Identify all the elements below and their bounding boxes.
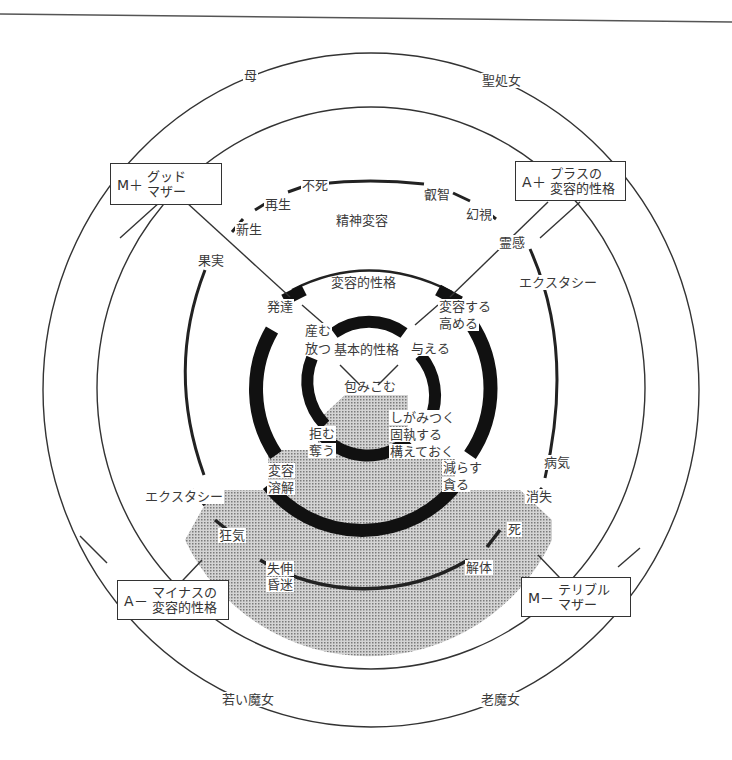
label-development: 発達: [266, 299, 294, 314]
box-symbol: M－: [528, 587, 554, 607]
label-immortality: 不死: [301, 178, 329, 193]
box-symbol: A＋: [522, 171, 546, 191]
label-refuse-2: 奪う: [308, 443, 336, 458]
box-positive-transformative: A＋ プラスの変容的性格: [515, 161, 626, 201]
label-illness: 病気: [543, 455, 571, 470]
label-death: 死: [507, 522, 522, 537]
label-ecstasy-right: エクスタシー: [518, 275, 598, 290]
label-contain: 包みこむ: [343, 379, 397, 394]
label-spirit-transformation: 精神変容: [335, 213, 389, 228]
label-transform-2: 高める: [438, 316, 479, 331]
box-line: 変容的性格: [550, 181, 615, 196]
box-symbol: M＋: [117, 174, 143, 194]
label-bear-2: 放つ: [304, 341, 332, 356]
box-good-mother: M＋ グッドマザー: [110, 163, 222, 205]
box-line: マザー: [558, 597, 610, 612]
label-change-2: 溶解: [267, 480, 295, 495]
label-reduce-1: 減らす: [442, 460, 483, 475]
label-give: 与える: [410, 341, 451, 356]
label-reduce-2: 貪る: [442, 477, 470, 492]
box-line: プラスの: [550, 166, 615, 181]
box-line: テリブル: [558, 582, 610, 597]
label-stupor-1: 失伸: [266, 561, 294, 576]
label-madness: 狂気: [218, 528, 246, 543]
label-old-witch: 老魔女: [480, 692, 521, 707]
box-symbol: A－: [124, 590, 148, 610]
header-rule: [0, 14, 732, 22]
label-cling-2: 固執する: [389, 427, 443, 442]
label-elementary-character: 基本的性格: [333, 342, 400, 357]
label-disappearance: 消失: [525, 489, 553, 504]
label-fruit: 果実: [197, 253, 225, 268]
label-holy-virgin: 聖処女: [481, 73, 522, 88]
label-change-1: 変容: [267, 463, 295, 478]
label-new-birth: 新生: [235, 222, 263, 237]
label-rebirth: 再生: [264, 197, 292, 212]
label-young-witch: 若い魔女: [221, 692, 275, 707]
box-line: マイナスの: [152, 585, 217, 600]
label-transformative-character: 変容的性格: [330, 275, 397, 290]
label-vision: 幻視: [465, 207, 493, 222]
box-terrible-mother: M－ テリブルマザー: [521, 577, 631, 617]
label-cling-1: しがみつく: [389, 410, 456, 425]
label-bear-1: 産む: [304, 323, 332, 338]
box-negative-transformative: A－ マイナスの変容的性格: [117, 580, 229, 620]
label-ecstasy-left: エクスタシー: [144, 489, 224, 504]
box-line: 変容的性格: [152, 600, 217, 615]
label-dissolution: 解体: [465, 560, 493, 575]
box-line: マザー: [147, 184, 186, 199]
label-cling-3: 構えておく: [389, 444, 455, 459]
label-transform-1: 変容する: [438, 299, 492, 314]
box-line: グッド: [147, 169, 186, 184]
label-wisdom: 叡智: [423, 187, 451, 202]
label-stupor-2: 昏迷: [266, 577, 294, 592]
label-refuse-1: 拒む: [308, 426, 336, 441]
label-mother: 母: [243, 68, 258, 83]
label-inspiration: 霊感: [498, 235, 526, 250]
